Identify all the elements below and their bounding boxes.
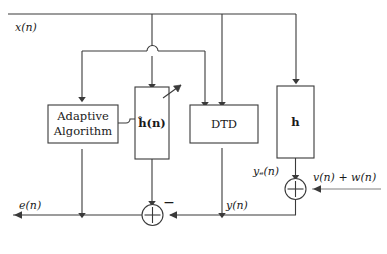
secondary-bus-group [82,14,205,51]
return-path-group: y(n) [169,199,296,219]
wire-return-arrowhead [169,211,177,219]
label-output-signal: y(n) [225,199,248,212]
sum-junction-bottom[interactable]: − [142,159,175,226]
block-dtd[interactable]: DTD [190,105,258,143]
block-adaptive-algorithm[interactable]: Adaptive Algorithm [48,105,118,143]
label-error-signal: e(n) [19,199,41,212]
wire-hop-arc [147,46,158,51]
sum-junction-top[interactable]: yₑ(n) v(n) + w(n) [252,158,381,200]
label-minus-sign: − [163,194,175,210]
echo-cancellation-diagram: x(n) Adaptive Algorithm ĥ(n) [0,0,387,254]
connector-adaptive-to-hhat [118,119,135,123]
label-noise-signal: v(n) + w(n) [313,171,376,184]
h-echo-path-label: h [291,115,300,129]
block-hhat-filter[interactable]: ĥ(n) [135,85,181,159]
error-output-group: e(n) [13,149,142,219]
connector-adaptive-to-hhat-line [118,119,135,123]
dtd-label: DTD [211,117,237,131]
adaptive-algorithm-label-line2: Algorithm [53,124,112,138]
wire-error-arrowhead [14,211,22,219]
label-echo-signal: yₑ(n) [252,165,279,178]
label-input-signal: x(n) [15,21,37,34]
adaptive-algorithm-label-line1: Adaptive [56,109,109,123]
hhat-filter-label: ĥ(n) [137,116,166,130]
vertical-drops-group [82,14,296,104]
adaptive-diagonal-arrow-head [174,85,182,92]
block-h-echo-path[interactable]: h [277,86,314,158]
wire-noise-arrowhead [313,185,321,193]
